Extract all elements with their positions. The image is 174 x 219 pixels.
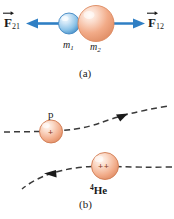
panel-b-caption: (b) <box>79 199 92 210</box>
panel-b: p + ++ 4He (b) <box>0 100 174 219</box>
force-label-f21: F 21 <box>4 16 20 31</box>
helium-label: 4He <box>90 184 107 196</box>
mass-subscript-m1: 1 <box>70 44 74 52</box>
force-subscript-f21: 21 <box>12 22 20 31</box>
mass-subscript-m2: 2 <box>97 46 101 54</box>
vector-arrow-icon <box>147 9 158 15</box>
proton-charge-sign: + <box>48 128 54 137</box>
force-symbol-f12: F <box>148 15 156 30</box>
force-subscript-f12: 12 <box>156 22 164 31</box>
mass-label-m2: m2 <box>90 42 101 54</box>
force-label-f12: F 12 <box>148 16 164 31</box>
force-symbol-f21: F <box>4 15 12 30</box>
panel-a-caption: (a) <box>79 68 91 79</box>
helium-element-symbol: He <box>94 184 107 196</box>
mass-label-m1: m1 <box>63 40 74 52</box>
physics-figure: F 21 F 12 m1 m2 (a) p + ++ 4He <box>0 0 174 219</box>
proton-label: p <box>48 109 54 120</box>
panel-a: F 21 F 12 m1 m2 (a) <box>0 0 174 100</box>
helium-charge-sign: ++ <box>98 162 109 171</box>
vector-arrow-icon <box>3 9 14 15</box>
